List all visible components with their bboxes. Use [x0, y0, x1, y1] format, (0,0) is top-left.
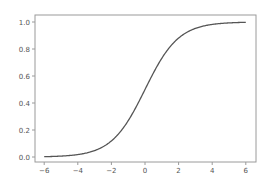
x-tick-label: −4	[73, 167, 84, 175]
x-tick-label: −6	[39, 167, 50, 175]
y-tick-label: 0.0	[19, 154, 30, 162]
y-tick-label: 1.0	[19, 19, 30, 27]
y-axis-ticks: 0.00.20.40.60.81.0	[19, 19, 35, 162]
y-tick-label: 0.6	[19, 73, 31, 81]
x-tick-label: 4	[210, 167, 215, 175]
x-tick-label: 0	[143, 167, 147, 175]
x-tick-label: 2	[176, 167, 180, 175]
x-axis-ticks: −6−4−20246	[39, 162, 249, 175]
y-tick-label: 0.4	[19, 100, 31, 108]
sigmoid-line-chart: −6−4−20246 0.00.20.40.60.81.0	[0, 0, 271, 187]
y-tick-label: 0.8	[19, 46, 30, 54]
x-tick-label: −2	[106, 167, 116, 175]
x-tick-label: 6	[244, 167, 249, 175]
y-tick-label: 0.2	[19, 127, 30, 135]
